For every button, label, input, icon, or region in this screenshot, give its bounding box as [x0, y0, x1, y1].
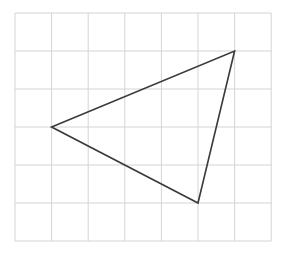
grid-diagram [0, 0, 288, 253]
